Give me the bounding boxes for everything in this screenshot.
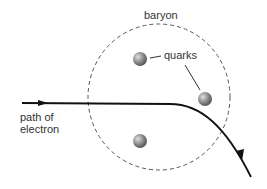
- baryon-label: baryon: [144, 9, 178, 21]
- quark-right: [198, 92, 212, 106]
- quark-bottom: [133, 134, 147, 148]
- arrowhead-icon: [236, 149, 244, 161]
- quarks-leader-1: [150, 56, 161, 58]
- quarks-label: quarks: [164, 49, 197, 61]
- arrowhead-icon: [38, 100, 48, 106]
- path-label-line2: electron: [20, 123, 59, 135]
- path-label-line1: path of: [20, 111, 54, 123]
- quarks-leader-2: [185, 65, 200, 90]
- baryon-diagram: [0, 0, 267, 189]
- quark-top: [133, 52, 147, 66]
